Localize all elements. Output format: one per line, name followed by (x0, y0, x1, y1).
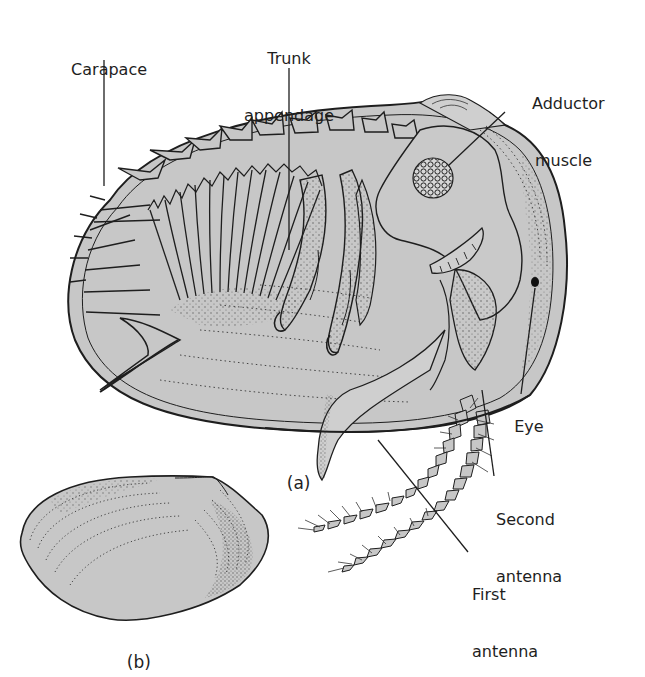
label-eye: Eye (504, 398, 554, 436)
label-adductor-muscle-line1: Adductor (532, 94, 642, 113)
label-second-antenna-line1: Second (496, 510, 586, 529)
label-trunk-appendage: Trunk appendage (238, 11, 340, 144)
label-first-antenna-line2: antenna (472, 642, 562, 661)
panel-label-a: (a) (276, 455, 310, 493)
label-adductor-muscle-line2: muscle (532, 151, 642, 170)
panel-label-a-text: (a) (287, 473, 311, 493)
label-first-antenna: First antenna (472, 547, 562, 677)
label-carapace: Carapace (58, 41, 150, 79)
label-trunk-appendage-line2: appendage (238, 106, 340, 125)
label-first-antenna-line1: First (472, 585, 562, 604)
eye-spot (531, 277, 539, 287)
label-adductor-muscle: Adductor muscle (532, 56, 642, 189)
panel-b-valve (20, 476, 268, 620)
panel-label-b: (b) (116, 634, 150, 672)
label-eye-text: Eye (514, 417, 543, 436)
label-carapace-text: Carapace (71, 60, 147, 79)
adductor-muscle-scar (413, 158, 453, 198)
label-trunk-appendage-line1: Trunk (238, 49, 340, 68)
panel-label-b-text: (b) (127, 652, 151, 672)
